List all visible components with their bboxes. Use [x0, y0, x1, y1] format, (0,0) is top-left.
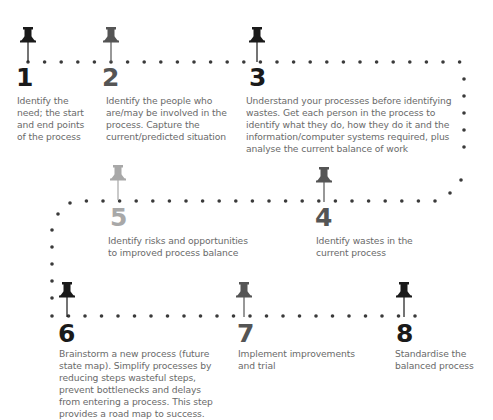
path-dot	[462, 145, 466, 149]
pushpin-icon	[56, 282, 78, 318]
step-number: 7	[237, 321, 254, 346]
path-dot	[417, 199, 421, 203]
path-dot	[151, 199, 155, 203]
path-dot	[59, 60, 63, 64]
path-dot	[367, 199, 371, 203]
path-dot	[126, 60, 130, 64]
path-dot	[425, 60, 429, 64]
path-dot	[209, 60, 213, 64]
path-dot	[217, 199, 221, 203]
path-dot	[358, 60, 362, 64]
path-dot	[149, 314, 153, 318]
path-dot	[56, 212, 60, 216]
path-dot	[83, 314, 87, 318]
path-dot	[50, 296, 54, 300]
path-dot	[168, 199, 172, 203]
path-dot	[459, 178, 463, 182]
pushpin-icon	[17, 27, 39, 63]
path-dot	[300, 199, 304, 203]
path-dot	[101, 199, 105, 203]
pushpin-icon	[246, 27, 268, 63]
path-dot	[314, 314, 318, 318]
path-dot	[298, 314, 302, 318]
path-dot	[50, 245, 54, 249]
path-dot	[50, 228, 54, 232]
path-dot	[182, 314, 186, 318]
path-dot	[342, 60, 346, 64]
path-dot	[265, 314, 269, 318]
pushpin-icon	[233, 282, 255, 318]
path-dot	[93, 60, 97, 64]
path-dot	[176, 60, 180, 64]
path-dot	[375, 60, 379, 64]
path-dot	[192, 60, 196, 64]
path-dot	[134, 199, 138, 203]
path-dot	[408, 60, 412, 64]
path-dot	[462, 128, 466, 132]
path-dot	[462, 111, 466, 115]
path-dot	[133, 314, 137, 318]
step-number: 1	[16, 65, 33, 90]
step-description: Standardise the balanced process	[395, 348, 493, 372]
path-dot	[275, 60, 279, 64]
pushpin-icon	[393, 282, 415, 318]
path-dot	[159, 60, 163, 64]
step-number: 3	[249, 65, 266, 90]
path-dot	[325, 60, 329, 64]
path-dot	[292, 60, 296, 64]
step-description: Understand your processes before identif…	[246, 95, 461, 155]
path-dot	[308, 60, 312, 64]
path-dot	[400, 199, 404, 203]
path-dot	[331, 314, 335, 318]
path-dot	[383, 199, 387, 203]
path-dot	[76, 60, 80, 64]
path-dot	[391, 60, 395, 64]
path-dot	[433, 199, 437, 203]
path-dot	[199, 314, 203, 318]
step-description: Identify the people who are/may be invol…	[106, 95, 236, 143]
path-dot	[347, 314, 351, 318]
step-number: 4	[315, 205, 332, 230]
path-dot	[50, 314, 54, 318]
path-dot	[215, 314, 219, 318]
pushpin-icon	[107, 165, 129, 201]
path-dot	[225, 60, 229, 64]
path-dot	[364, 314, 368, 318]
path-dot	[448, 191, 452, 195]
path-dot	[142, 60, 146, 64]
path-dot	[184, 199, 188, 203]
path-dot	[166, 314, 170, 318]
path-dot	[234, 199, 238, 203]
path-dot	[100, 314, 104, 318]
path-dot	[284, 199, 288, 203]
path-dot	[43, 60, 47, 64]
step-number: 8	[396, 321, 413, 346]
path-dot	[441, 60, 445, 64]
step-description: Identify risks and opportunities to impr…	[108, 235, 258, 259]
path-dot	[85, 199, 89, 203]
path-dot	[251, 199, 255, 203]
path-dot	[201, 199, 205, 203]
step-number: 5	[110, 205, 127, 230]
path-dot	[50, 262, 54, 266]
pushpin-icon	[100, 27, 122, 63]
path-dot	[50, 279, 54, 283]
path-dot	[116, 314, 120, 318]
path-dot	[350, 199, 354, 203]
path-dot	[462, 94, 466, 98]
step-description: Identify wastes in the current process	[316, 235, 446, 259]
path-dot	[68, 201, 72, 205]
step-description: Identify the need; the start and end poi…	[17, 95, 107, 143]
step-description: Implement improvements and trial	[238, 348, 368, 372]
path-dot	[380, 314, 384, 318]
path-dot	[462, 77, 466, 81]
path-dot	[281, 314, 285, 318]
step-description: Brainstorm a new process (future state m…	[59, 348, 219, 420]
path-dot	[458, 60, 462, 64]
step-number: 6	[58, 321, 75, 346]
step-number: 2	[102, 65, 119, 90]
pushpin-icon	[313, 167, 335, 203]
path-dot	[267, 199, 271, 203]
